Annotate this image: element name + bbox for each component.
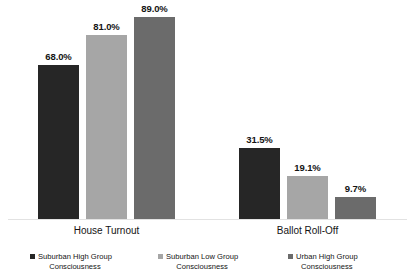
legend-item-suburban-high[interactable]: Suburban High Group Consciousness [30, 252, 148, 271]
chart-legend: Suburban High Group Consciousness Suburb… [0, 252, 413, 277]
bar-house-turnout-urban-high[interactable] [134, 17, 175, 219]
bar-value-label: 19.1% [285, 162, 330, 173]
bar-ballot-rolloff-suburban-low[interactable] [287, 176, 328, 219]
legend-swatch-icon [30, 254, 35, 259]
legend-swatch-icon [288, 254, 293, 259]
bar-value-label: 89.0% [132, 3, 177, 14]
category-label-house-turnout: House Turnout [44, 225, 169, 236]
legend-label: Suburban Low Group Consciousness [166, 252, 238, 271]
bar-value-label: 9.7% [333, 183, 378, 194]
plot-area: 68.0% 81.0% 89.0% 31.5% 19.1% 9.7% House… [0, 0, 413, 220]
legend-item-urban-high[interactable]: Urban High Group Consciousness [288, 252, 406, 271]
bar-ballot-rolloff-suburban-high[interactable] [239, 148, 280, 219]
bar-value-label: 68.0% [36, 51, 81, 62]
bar-value-label: 31.5% [237, 134, 282, 145]
bar-house-turnout-suburban-low[interactable] [86, 35, 127, 219]
category-label-ballot-roll-off: Ballot Roll-Off [245, 225, 370, 236]
legend-label: Urban High Group Consciousness [296, 252, 358, 271]
legend-label: Suburban High Group Consciousness [38, 252, 112, 271]
bar-ballot-rolloff-urban-high[interactable] [335, 197, 376, 219]
bar-chart: 68.0% 81.0% 89.0% 31.5% 19.1% 9.7% House… [0, 0, 413, 277]
bar-house-turnout-suburban-high[interactable] [38, 65, 79, 219]
legend-swatch-icon [158, 254, 163, 259]
bar-value-label: 81.0% [84, 21, 129, 32]
legend-item-suburban-low[interactable]: Suburban Low Group Consciousness [158, 252, 276, 271]
axis-baseline [8, 219, 407, 220]
